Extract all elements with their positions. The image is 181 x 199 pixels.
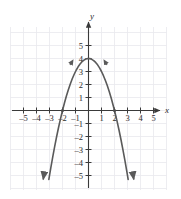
x-tick-label: 5 xyxy=(151,113,155,123)
parabola-plot: –5 –4 –3 –2 –1 1 2 3 4 5 5 4 3 2 1 –1 –2… xyxy=(0,0,181,199)
y-tick-label: –1 xyxy=(74,119,84,129)
y-tick-label: –5 xyxy=(74,171,84,181)
y-axis-label: y xyxy=(89,11,94,21)
y-tick-label: 3 xyxy=(79,67,83,77)
curve-right-arrowhead xyxy=(133,173,134,180)
curve-left-shoulder-mark xyxy=(70,61,72,65)
curve-left-arrowhead xyxy=(43,173,44,180)
graph-figure: –5 –4 –3 –2 –1 1 2 3 4 5 5 4 3 2 1 –1 –2… xyxy=(0,0,181,199)
x-tick-label: –4 xyxy=(31,113,41,123)
y-tick-label: 1 xyxy=(79,93,83,103)
x-intercept-left xyxy=(61,109,64,112)
y-tick-label: –4 xyxy=(74,158,84,168)
y-tick-label: 5 xyxy=(79,41,83,51)
x-intercept-right xyxy=(113,109,116,112)
x-tick-label: 4 xyxy=(138,113,143,123)
x-tick-label: 3 xyxy=(125,113,129,123)
y-tick-label: 2 xyxy=(79,80,83,90)
y-tick-label: –3 xyxy=(74,145,84,155)
x-tick-label: 1 xyxy=(99,113,103,123)
x-tick-label: –3 xyxy=(44,113,54,123)
curve-right-shoulder-mark xyxy=(105,61,107,65)
y-tick-label: –2 xyxy=(74,132,84,142)
x-axis-label: x xyxy=(164,105,169,115)
x-tick-labels: –5 –4 –3 –2 –1 1 2 3 4 5 xyxy=(18,113,155,123)
x-tick-label: –5 xyxy=(18,113,28,123)
axes xyxy=(12,22,160,188)
